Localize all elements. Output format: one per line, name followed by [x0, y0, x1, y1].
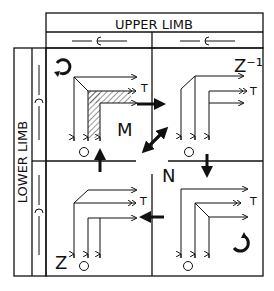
quadrant-top-right: Z⁻¹ T: [181, 55, 263, 157]
label-n: N: [162, 165, 175, 186]
svg-text:T: T: [140, 82, 148, 95]
svg-text:T: T: [249, 195, 257, 208]
clockwise-arrow-icon: [234, 236, 248, 251]
joint-icon: [35, 175, 43, 255]
origin-icon: [80, 262, 89, 271]
label-m: M: [117, 119, 133, 140]
quadrant-top-left: T M: [54, 60, 148, 157]
joint-icon: [72, 37, 127, 45]
origin-icon: [184, 262, 193, 271]
diagram-canvas: UPPER LIMB LOWER LIMB: [0, 0, 274, 291]
quadrant-bottom-left: Z T: [55, 190, 147, 273]
svg-text:T: T: [249, 85, 257, 98]
joint-icon: [35, 65, 43, 140]
svg-text:T: T: [139, 195, 147, 208]
joint-icon: [180, 37, 235, 45]
quadrant-bottom-right: T: [181, 189, 257, 271]
origin-icon: [185, 148, 194, 157]
label-z-inverse: Z⁻¹: [234, 55, 263, 76]
label-z: Z: [55, 252, 67, 273]
lower-limb-title: LOWER LIMB: [15, 121, 30, 203]
origin-icon: [80, 148, 89, 157]
upper-limb-title: UPPER LIMB: [115, 17, 193, 32]
